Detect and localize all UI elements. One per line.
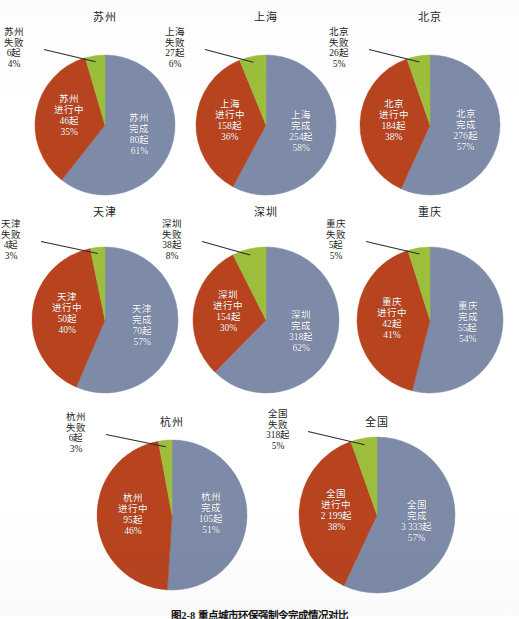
slice-label-status: 完成 — [372, 511, 462, 522]
slice-label-进行中: 全国进行中2 199起38% — [291, 489, 381, 533]
slice-label-count: 3 333起 — [372, 522, 462, 533]
callout-label-name: 全国 — [249, 409, 307, 420]
slice-label-name: 全国 — [372, 500, 462, 511]
callout-label-pct: 5% — [249, 441, 307, 452]
slice-label-count: 2 199起 — [291, 511, 381, 522]
callout-label-count: 318起 — [249, 430, 307, 441]
callout-label-失败: 全国失败318起5% — [249, 409, 307, 452]
slice-label-完成: 全国完成3 333起57% — [372, 500, 462, 544]
slice-label-pct: 38% — [291, 522, 381, 533]
slice-label-status: 进行中 — [291, 500, 381, 511]
callout-label-status: 失败 — [249, 420, 307, 431]
slice-label-name: 全国 — [291, 489, 381, 500]
figure-caption: 图2-8 重点城市环保强制令完成情况对比 — [0, 607, 519, 619]
slice-label-pct: 57% — [372, 533, 462, 544]
